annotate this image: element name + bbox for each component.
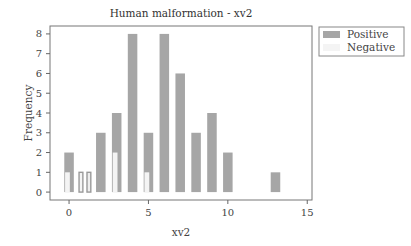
- positive-bar: [175, 73, 185, 192]
- y-tick-label: 5: [36, 88, 42, 99]
- y-tick-label: 1: [36, 167, 42, 178]
- x-tick-label: 10: [221, 207, 234, 218]
- legend-swatch-negative: [323, 44, 340, 51]
- legend: Positive Negative: [319, 27, 404, 56]
- y-axis-ticks: 012345678: [36, 28, 50, 197]
- chart: Human malformation - xv2 051015 01234567…: [0, 0, 411, 246]
- x-axis-label: xv2: [172, 226, 191, 238]
- positive-bar: [271, 172, 281, 192]
- positive-bar: [96, 133, 106, 192]
- y-tick-label: 3: [36, 127, 42, 138]
- legend-swatch-positive: [323, 31, 340, 38]
- x-tick-label: 5: [145, 207, 151, 218]
- y-axis-label: Frequency: [22, 85, 34, 142]
- negative-bar: [65, 172, 70, 192]
- legend-label-negative: Negative: [347, 41, 395, 53]
- negative-bar: [144, 172, 149, 192]
- positive-bar: [223, 153, 233, 193]
- y-tick-label: 2: [36, 147, 42, 158]
- legend-label-positive: Positive: [347, 28, 388, 40]
- y-tick-label: 8: [36, 28, 42, 39]
- x-tick-label: 15: [301, 207, 314, 218]
- positive-bar: [87, 172, 91, 192]
- y-tick-label: 6: [36, 68, 42, 79]
- negative-bar: [113, 153, 118, 193]
- positive-bar: [191, 133, 201, 192]
- chart-title: Human malformation - xv2: [110, 7, 253, 19]
- positive-bar: [160, 34, 170, 192]
- positive-bar: [207, 113, 217, 192]
- y-tick-label: 4: [36, 108, 42, 119]
- y-tick-label: 0: [36, 187, 42, 198]
- x-axis-ticks: 051015: [66, 200, 314, 218]
- negative-bar: [79, 172, 83, 192]
- y-tick-label: 7: [36, 48, 42, 59]
- x-tick-label: 0: [66, 207, 72, 218]
- positive-bar: [128, 34, 138, 192]
